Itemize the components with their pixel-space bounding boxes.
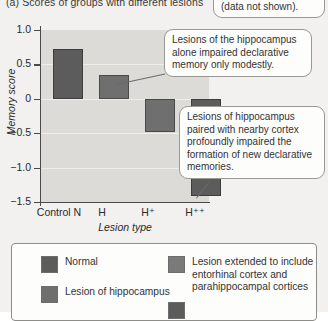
chart-legend: Normal Lesion of hippocampus Lesion exte…	[11, 243, 317, 321]
legend-label-lesion-hippocampus: Lesion of hippocampus	[65, 286, 170, 299]
legend-label-lesion-extended: Lesion extended to include entorhinal co…	[192, 256, 316, 294]
callout-data-not-shown: (data not shown).	[213, 0, 325, 18]
y-tick-label--1.0: −1.0	[10, 161, 31, 173]
y-tick-label-0.5: 0.5	[16, 57, 31, 69]
x-tick-label-h-plus: H⁺	[133, 206, 163, 218]
bar-h-plus	[145, 99, 175, 133]
bar-control-n	[53, 49, 83, 99]
y-tick-label-0: 0	[25, 92, 31, 104]
callout-hippocampus-alone: Lesions of the hippocampus alone impaire…	[164, 29, 312, 77]
page-title: (a) Scores of groups with different lesi…	[6, 0, 203, 8]
x-tick-label-h-plus-plus: H⁺⁺	[179, 206, 211, 218]
x-tick-label-h: H	[87, 206, 117, 218]
legend-item	[168, 302, 316, 319]
legend-swatch-lesion-extended	[168, 256, 185, 273]
legend-item: Normal	[41, 256, 98, 273]
legend-swatch-lesion-hippocampus	[41, 286, 58, 303]
x-tick-label-control-n: Control N	[33, 206, 85, 218]
y-tick--0.5: −0.5	[34, 133, 40, 134]
x-axis-title: Lesion type	[41, 221, 209, 233]
callout-top-text: (data not shown).	[221, 1, 298, 14]
y-tick--1.5: −1.5	[34, 202, 40, 203]
y-axis-title: Memory score	[5, 62, 17, 142]
legend-item: Lesion extended to include entorhinal co…	[168, 256, 316, 294]
y-tick-1.0: 1.0	[34, 30, 40, 31]
callout-1-text: Lesions of the hippocampus alone impaire…	[172, 34, 297, 70]
x-axis-line	[40, 202, 210, 203]
legend-swatch-fourth	[168, 302, 185, 319]
y-tick-label-1.0: 1.0	[16, 23, 31, 35]
callout-hippocampus-plus-cortex: Lesions of hippocampus paired with nearb…	[179, 106, 325, 179]
legend-swatch-normal	[41, 256, 58, 273]
y-tick-label--1.5: −1.5	[10, 195, 31, 207]
legend-label-normal: Normal	[65, 256, 98, 269]
y-tick--1.0: −1.0	[34, 168, 40, 169]
bar-h	[99, 75, 129, 98]
callout-2-text: Lesions of hippocampus paired with nearb…	[187, 111, 312, 172]
legend-item: Lesion of hippocampus	[41, 286, 170, 303]
gridline-0	[41, 99, 209, 100]
y-axis-line	[40, 26, 41, 206]
y-tick-0: 0	[34, 99, 40, 100]
y-tick-0.5: 0.5	[34, 64, 40, 65]
